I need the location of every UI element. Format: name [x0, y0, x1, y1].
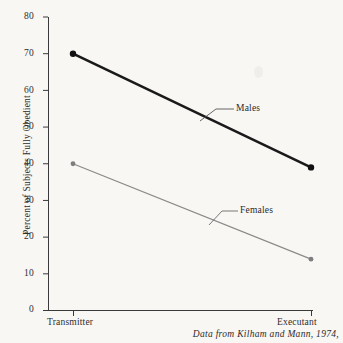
males-leader-line: [200, 109, 234, 121]
series-label-females: Females: [240, 205, 273, 215]
series-label-males: Males: [236, 103, 260, 113]
y-axis-ticks: [43, 17, 48, 311]
ytick-label-0: 0: [12, 304, 34, 314]
ytick-label-10: 10: [12, 268, 34, 278]
ytick-label-70: 70: [12, 48, 34, 58]
series-females: [71, 161, 314, 261]
data-point-females-executant: [309, 257, 314, 262]
figure-line-chart: 80 70 60 50 40 30 20 10 0 Transmitter Ex…: [0, 0, 343, 343]
ytick-label-80: 80: [12, 11, 34, 21]
figure-caption: Data from Kilham and Mann, 1974,: [193, 329, 339, 339]
data-point-males-transmitter: [70, 50, 76, 56]
series-males: [70, 50, 314, 170]
females-leader-line: [209, 211, 238, 225]
data-point-males-executant: [308, 164, 314, 170]
chart-plot-area: [0, 0, 343, 343]
x-axis-ticks: [74, 311, 312, 316]
data-point-females-transmitter: [71, 161, 76, 166]
y-axis-title: Percent of Subjects Fully Obedient: [22, 65, 32, 265]
xtick-label-executant: Executant: [277, 317, 317, 327]
xtick-label-transmitter: Transmitter: [47, 317, 93, 327]
